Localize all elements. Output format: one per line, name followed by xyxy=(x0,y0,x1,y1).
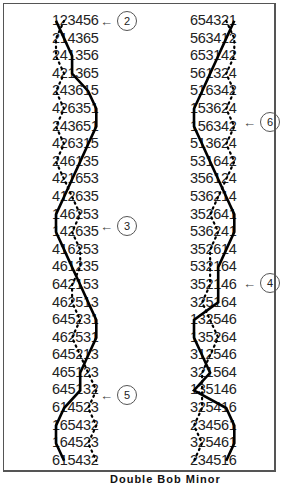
arrow-left-icon: ← xyxy=(100,219,113,234)
diagram-caption: Double Bob Minor xyxy=(110,473,221,485)
callout-circle: 5 xyxy=(117,385,137,405)
callout-5: ← 5 xyxy=(100,385,137,405)
callout-4: ← 4 xyxy=(243,273,280,293)
callout-circle: 4 xyxy=(260,273,280,293)
arrow-left-icon: ← xyxy=(100,388,113,403)
callout-2: ← 2 xyxy=(100,11,137,31)
callout-circle: 2 xyxy=(117,11,137,31)
arrow-left-icon: ← xyxy=(243,276,256,291)
arrow-left-icon: ← xyxy=(243,115,256,130)
arrow-left-icon: ← xyxy=(100,14,113,29)
callout-6: ← 6 xyxy=(243,112,280,132)
callout-circle: 6 xyxy=(260,112,280,132)
bell-path-lines xyxy=(0,0,282,485)
callout-3: ← 3 xyxy=(100,216,137,236)
callout-circle: 3 xyxy=(117,216,137,236)
